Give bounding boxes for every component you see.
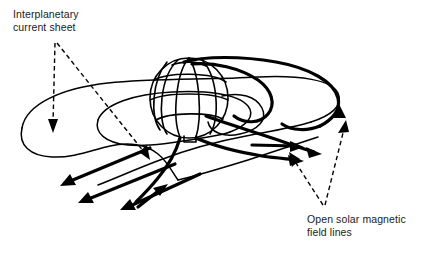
label-field-lines-line2: field lines [307, 226, 352, 238]
label-field-lines-line1: Open solar magnetic [307, 213, 406, 225]
field-line-arrowhead-right-2 [306, 147, 322, 158]
leader-arrowhead-current-sheet-vertical [48, 119, 58, 133]
current-sheet-back-rim [22, 77, 339, 128]
sun-meridian-4 [203, 61, 216, 134]
label-open-solar-magnetic-field-lines: Open solar magneticfield lines [307, 213, 406, 239]
field-line-left-1 [68, 148, 150, 182]
label-current-sheet-line1: Interplanetary [13, 8, 79, 20]
open-magnetic-field-lines [60, 58, 346, 211]
interplanetary-current-sheet [21, 77, 339, 185]
field-line-arrowhead-right-1 [332, 104, 346, 118]
sun-meridian-1 [176, 58, 189, 137]
figure-canvas: Interplanetarycurrent sheet Open solar m… [0, 0, 439, 255]
leader-field-lines-up-right [325, 129, 344, 205]
leader-current-sheet-vertical [53, 43, 55, 124]
field-line-right-short [252, 145, 296, 146]
sun-sphere [150, 58, 228, 142]
label-interplanetary-current-sheet: Interplanetarycurrent sheet [13, 8, 79, 34]
leader-field-lines-up-left [294, 160, 323, 205]
leader-arrowhead-field-lines-up-right [338, 120, 349, 133]
label-current-sheet-line2: current sheet [13, 21, 76, 33]
current-sheet-right-lobe [98, 122, 311, 185]
sun-meridian-2 [189, 58, 199, 137]
sun-meridian-3 [161, 60, 178, 134]
